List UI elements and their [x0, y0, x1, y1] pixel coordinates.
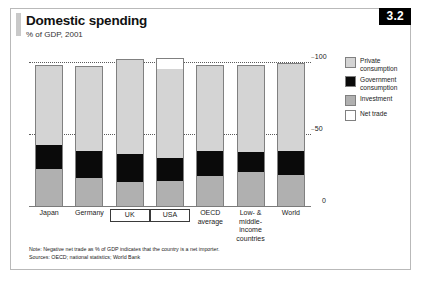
bar-stack[interactable] [156, 58, 184, 207]
legend-item-nettrade[interactable]: Net trade [345, 110, 409, 121]
y-axis: ∙∙∙100∙∙∙500 [311, 49, 341, 207]
bar-group[interactable] [196, 49, 224, 207]
legend-swatch-private [345, 57, 356, 68]
bar-segment-investment [36, 169, 62, 206]
bar-segment-private-consumption [76, 67, 102, 151]
legend-label-private: Privateconsumption [360, 57, 397, 72]
x-axis-label-line: countries [230, 235, 270, 244]
x-axis-label-line: UK [111, 211, 149, 220]
y-tick-label: 0 [322, 197, 326, 204]
legend-item-government[interactable]: Governmentconsumption [345, 76, 409, 91]
legend-label-government: Governmentconsumption [360, 76, 397, 91]
bar-segment-government-consumption [197, 151, 223, 176]
chart-subtitle: % of GDP, 2001 [26, 30, 83, 39]
legend-label-line: Net trade [360, 110, 387, 118]
tick-dash: ∙∙∙ [311, 53, 314, 60]
figure-panel: Domestic spending % of GDP, 2001 3.2 ∙∙∙… [10, 8, 411, 270]
bar-segment-government-consumption [238, 152, 264, 172]
bar-segment-investment [278, 175, 304, 206]
bar-segment-government-consumption [157, 158, 183, 181]
legend-item-investment[interactable]: Investment [345, 95, 409, 106]
bar-segment-investment [117, 182, 143, 206]
x-axis-label-oecd-average: OECDaverage [190, 209, 230, 226]
x-axis-label-line: Germany [69, 209, 109, 218]
figure-number-badge: 3.2 [379, 8, 411, 25]
bar-segment-net-trade [157, 59, 183, 69]
bar-stack[interactable] [237, 65, 265, 207]
y-tick-label: 100 [315, 53, 327, 60]
bar-segment-private-consumption [117, 60, 143, 154]
bar-segment-government-consumption [117, 154, 143, 182]
bar-group[interactable] [156, 49, 184, 207]
bar-stack[interactable] [35, 65, 63, 207]
y-tick-label: 50 [315, 125, 323, 132]
legend-item-private[interactable]: Privateconsumption [345, 57, 409, 72]
bar-group[interactable] [75, 49, 103, 207]
x-axis-label-line: OECD [190, 209, 230, 218]
bar-group[interactable] [277, 49, 305, 207]
tick-dash: ∙∙∙ [311, 125, 314, 132]
x-axis-label-low-middle-income-countries: Low- &middle-incomecountries [230, 209, 270, 243]
legend-swatch-nettrade [345, 110, 356, 121]
bar-segment-government-consumption [76, 151, 102, 178]
bar-segment-investment [76, 178, 102, 206]
legend-swatch-government [345, 76, 356, 87]
bar-segment-investment [197, 176, 223, 206]
bar-segment-private-consumption [36, 66, 62, 145]
legend-label-line: Private [360, 57, 397, 65]
figure-header: Domestic spending % of GDP, 2001 3.2 [11, 9, 410, 49]
x-axis-label-germany: Germany [69, 209, 109, 218]
x-axis-label-line: average [190, 218, 230, 227]
bar-segment-private-consumption [197, 66, 223, 151]
x-axis-label-line: World [271, 209, 311, 218]
x-axis-label-line: middle-income [230, 218, 270, 235]
bar-segment-private-consumption [278, 64, 304, 150]
legend-swatch-investment [345, 95, 356, 106]
x-axis-label-japan: Japan [29, 209, 69, 218]
legend-label-line: consumption [360, 84, 397, 92]
x-axis-label-uk: UK [110, 209, 150, 222]
x-axis-labels: JapanGermanyUKUSAOECDaverageLow- &middle… [29, 209, 311, 239]
bar-stack[interactable] [75, 66, 103, 207]
y-tick-50: ∙∙∙50 [311, 125, 323, 132]
bar-group[interactable] [35, 49, 63, 207]
footnote-note: Note: Negative net trade as % of GDP ind… [29, 246, 369, 254]
x-axis-label-line: USA [151, 211, 189, 220]
y-tick-100: ∙∙∙100 [311, 53, 327, 60]
footnotes: Note: Negative net trade as % of GDP ind… [29, 246, 369, 261]
bar-segment-government-consumption [36, 145, 62, 169]
page-title: Domestic spending [26, 13, 147, 28]
legend-label-line: consumption [360, 65, 397, 73]
bar-stack[interactable] [277, 63, 305, 207]
bar-stack[interactable] [116, 59, 144, 207]
title-accent-bar [16, 13, 21, 36]
bar-segment-private-consumption [157, 69, 183, 158]
x-axis-label-usa: USA [150, 209, 190, 222]
legend-label-line: Investment [360, 95, 392, 103]
chart-legend: PrivateconsumptionGovernmentconsumptionI… [345, 57, 409, 125]
legend-label-nettrade: Net trade [360, 110, 387, 118]
bar-stack[interactable] [196, 65, 224, 207]
bar-segment-investment [157, 181, 183, 207]
axis-baseline [29, 206, 311, 207]
legend-label-line: Government [360, 76, 397, 84]
x-axis-label-line: Japan [29, 209, 69, 218]
x-axis-label-line: Low- & [230, 209, 270, 218]
legend-label-investment: Investment [360, 95, 392, 103]
bar-segment-government-consumption [278, 151, 304, 175]
bar-group[interactable] [116, 49, 144, 207]
bar-segment-private-consumption [238, 66, 264, 152]
y-tick-0: 0 [311, 197, 326, 204]
bar-segment-investment [238, 172, 264, 206]
x-axis-label-world: World [271, 209, 311, 218]
footnote-sources: Sources: OECD; national statistics; Worl… [29, 254, 369, 262]
plot-area [29, 49, 311, 207]
bar-group[interactable] [237, 49, 265, 207]
